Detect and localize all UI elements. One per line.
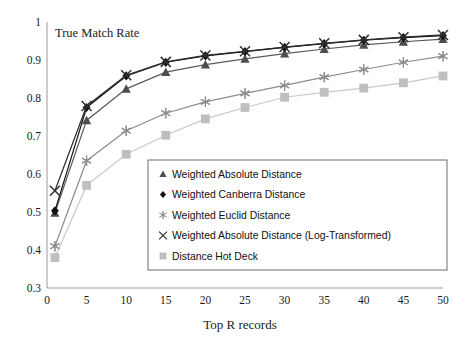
data-marker xyxy=(399,78,408,87)
x-tick-label: 25 xyxy=(239,294,251,306)
legend-item-label: Weighted Canberra Distance xyxy=(172,189,305,200)
data-marker xyxy=(160,253,167,260)
x-tick-label: 5 xyxy=(84,294,90,306)
data-marker xyxy=(439,72,448,81)
x-tick-label: 0 xyxy=(44,294,50,306)
x-tick-label: 10 xyxy=(120,294,132,306)
x-tick-label: 35 xyxy=(318,294,330,306)
x-tick-label: 30 xyxy=(279,294,291,306)
y-tick-label: 1 xyxy=(35,16,41,28)
data-marker xyxy=(359,84,368,93)
data-marker xyxy=(241,103,250,112)
legend-item-label: Weighted Absolute Distance (Log-Transfor… xyxy=(172,230,391,241)
y-tick-label: 0.8 xyxy=(27,92,42,104)
y-tick-label: 0.4 xyxy=(27,244,42,256)
legend-item-label: Distance Hot Deck xyxy=(172,251,259,262)
chart-figure: 0.30.40.50.60.70.80.91051015202530354045… xyxy=(0,0,466,339)
data-marker xyxy=(280,93,289,102)
x-tick-label: 45 xyxy=(398,294,410,306)
y-tick-label: 0.7 xyxy=(27,130,42,142)
y-axis-label: True Match Rate xyxy=(55,26,140,40)
data-marker xyxy=(201,115,210,124)
data-marker xyxy=(82,181,91,190)
x-tick-label: 15 xyxy=(160,294,172,306)
x-tick-label: 50 xyxy=(437,294,449,306)
legend-item-label: Weighted Euclid Distance xyxy=(172,210,290,221)
y-tick-label: 0.9 xyxy=(27,54,42,66)
x-axis-label: Top R records xyxy=(203,317,276,332)
x-tick-label: 20 xyxy=(200,294,212,306)
y-tick-label: 0.5 xyxy=(27,206,42,218)
y-tick-label: 0.6 xyxy=(27,168,42,180)
data-marker xyxy=(320,88,329,97)
data-marker xyxy=(122,150,131,159)
data-marker xyxy=(51,253,60,262)
data-marker xyxy=(161,131,170,140)
line-chart-canvas: 0.30.40.50.60.70.80.91051015202530354045… xyxy=(0,0,466,339)
chart-legend: Weighted Absolute DistanceWeighted Canbe… xyxy=(148,160,447,270)
y-tick-label: 0.3 xyxy=(27,282,42,294)
data-marker xyxy=(122,84,131,93)
x-tick-label: 40 xyxy=(358,294,370,306)
legend-item-label: Weighted Absolute Distance xyxy=(172,169,302,180)
